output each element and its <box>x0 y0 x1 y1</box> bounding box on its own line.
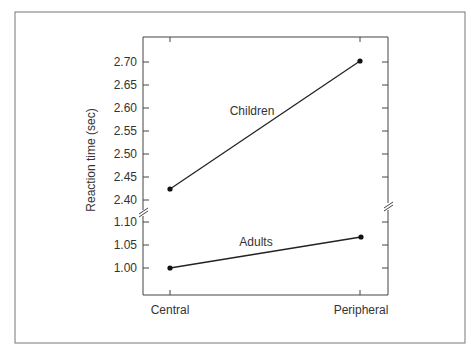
adults-point-peripheral <box>358 234 363 239</box>
tick-label: 1.00 <box>114 261 138 275</box>
children-label: Children <box>230 104 275 118</box>
x-label-central: Central <box>151 303 190 317</box>
outer-frame <box>15 12 465 343</box>
adults-label: Adults <box>239 235 272 249</box>
children-point-peripheral <box>357 58 362 63</box>
children-point-central <box>167 186 172 191</box>
tick-label: 2.40 <box>114 193 138 207</box>
chart: 2.70 2.65 2.60 2.55 2.50 2.45 2.40 1.10 … <box>0 0 471 358</box>
axes <box>139 37 393 295</box>
y-tick-labels: 2.70 2.65 2.60 2.55 2.50 2.45 2.40 1.10 … <box>114 55 138 275</box>
children-line <box>170 61 360 189</box>
x-label-peripheral: Peripheral <box>334 303 389 317</box>
tick-label: 2.70 <box>114 55 138 69</box>
tick-label: 2.60 <box>114 101 138 115</box>
adults-point-central <box>167 265 172 270</box>
tick-label: 2.65 <box>114 78 138 92</box>
tick-label: 2.50 <box>114 147 138 161</box>
tick-label: 1.10 <box>114 215 138 229</box>
tick-label: 2.55 <box>114 124 138 138</box>
y-axis-label: Reaction time (sec) <box>84 108 98 211</box>
tick-label: 1.05 <box>114 238 138 252</box>
tick-label: 2.45 <box>114 170 138 184</box>
